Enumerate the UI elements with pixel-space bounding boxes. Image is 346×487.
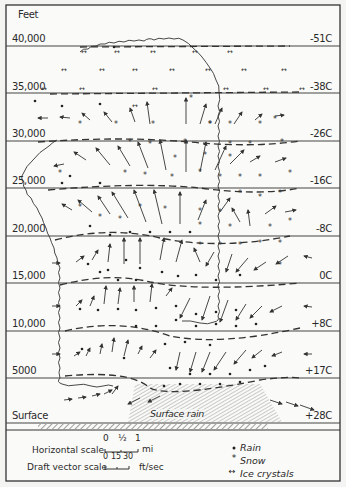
altitude-label-15000: 15,000 <box>12 271 45 281</box>
svg-text:↔: ↔ <box>79 85 85 93</box>
svg-text:↔: ↔ <box>132 66 138 74</box>
temperature-label: -26C <box>310 129 332 139</box>
svg-text:↔: ↔ <box>152 85 158 93</box>
svg-text:↔: ↔ <box>241 66 247 74</box>
temperature-label: -16C <box>310 176 332 186</box>
svg-text:*: * <box>198 207 202 216</box>
altitude-label-40000: 40,000 <box>12 34 45 44</box>
svg-text:↔: ↔ <box>281 66 287 74</box>
svg-text:*: * <box>258 173 262 182</box>
temperature-label: +28C <box>305 411 332 421</box>
svg-text:*: * <box>218 208 222 217</box>
horizontal-scale-tick: 1 <box>135 433 141 443</box>
svg-text:*: * <box>288 217 292 226</box>
svg-text:*: * <box>280 138 284 147</box>
svg-text:*: * <box>228 153 232 162</box>
svg-text:*: * <box>208 120 212 129</box>
altitude-label-35000: 35,000 <box>12 82 45 92</box>
altitude-label-30000: 30,000 <box>12 129 45 139</box>
svg-text:↔: ↔ <box>150 48 156 56</box>
temperature-label: -38C <box>310 82 332 92</box>
svg-text:↔: ↔ <box>114 48 120 56</box>
svg-text:*: * <box>273 115 277 124</box>
svg-text:*: * <box>198 241 202 250</box>
svg-text:*: * <box>198 168 202 177</box>
svg-text:↔: ↔ <box>61 66 67 74</box>
temperature-label: -51C <box>310 34 332 44</box>
altitude-label-25000: 25,000 <box>12 176 45 186</box>
rain-symbol <box>233 447 236 450</box>
svg-text:*: * <box>278 189 282 198</box>
svg-text:*: * <box>228 223 232 232</box>
thunderstorm-cross-section-diagram: *** *** *** *** *** *** *** *** *** *** … <box>0 0 346 487</box>
svg-text:↔: ↔ <box>81 48 87 56</box>
draft-scale-tick: 15 <box>111 452 121 461</box>
ice-crystal-symbol: ↔ <box>229 467 236 476</box>
altitude-label-20000: 20,000 <box>12 224 45 234</box>
svg-text:↔: ↔ <box>132 102 138 110</box>
altitude-label-10000: 10,000 <box>12 319 45 329</box>
svg-text:*: * <box>114 120 118 129</box>
svg-text:*: * <box>218 173 222 182</box>
svg-text:*: * <box>78 203 82 212</box>
svg-text:*: * <box>123 169 127 178</box>
snow-symbol: * <box>232 453 237 463</box>
svg-text:*: * <box>170 173 174 182</box>
draft-scale-tick: 0 <box>103 452 108 461</box>
svg-text:*: * <box>278 261 282 270</box>
svg-text:*: * <box>173 154 177 163</box>
svg-text:↔: ↔ <box>192 48 198 56</box>
temperature-label: 0C <box>319 271 332 281</box>
svg-text:*: * <box>228 140 232 149</box>
svg-text:↔: ↔ <box>263 85 269 93</box>
legend-snow: Snow <box>240 455 266 466</box>
svg-text:↔: ↔ <box>299 85 305 93</box>
temperature-label: +8C <box>311 319 332 329</box>
svg-text:*: * <box>268 223 272 232</box>
draft-vector-scale-unit: ft/sec <box>139 462 164 472</box>
svg-text:*: * <box>203 151 207 160</box>
svg-text:*: * <box>288 169 292 178</box>
svg-text:*: * <box>278 239 282 248</box>
horizontal-scale-unit: mi <box>142 444 153 454</box>
svg-text:*: * <box>258 120 262 129</box>
temperature-label: +17C <box>305 366 332 376</box>
svg-text:↔: ↔ <box>223 85 229 93</box>
horizontal-scale-tick: 0 <box>103 433 109 443</box>
draft-scale-tick: 30 <box>123 452 133 461</box>
svg-text:↔: ↔ <box>169 66 175 74</box>
svg-text:*: * <box>143 171 147 180</box>
temperature-label: -8C <box>316 224 332 234</box>
svg-text:*: * <box>218 241 222 250</box>
svg-text:*: * <box>148 140 152 149</box>
altitude-label-5000: 5000 <box>12 366 36 376</box>
svg-text:*: * <box>98 213 102 222</box>
svg-text:*: * <box>248 140 252 149</box>
svg-text:*: * <box>189 94 193 103</box>
svg-text:↔: ↔ <box>227 48 233 56</box>
horizontal-scale-label: Horizontal scale <box>32 445 104 455</box>
horizontal-scale-tick: ½ <box>118 433 127 443</box>
svg-text:*: * <box>138 203 142 212</box>
surface-rain-label: Surface rain <box>150 409 204 419</box>
svg-text:*: * <box>258 193 262 202</box>
draft-vector-scale-label: Draft vector scale <box>27 462 107 472</box>
legend-rain: Rain <box>240 442 261 453</box>
svg-text:*: * <box>238 241 242 250</box>
svg-text:*: * <box>58 169 62 178</box>
svg-text:*: * <box>163 205 167 214</box>
legend-ice-crystals: Ice crystals <box>240 468 294 479</box>
altitude-label-surface: Surface <box>12 411 48 421</box>
svg-text:*: * <box>238 189 242 198</box>
svg-text:*: * <box>198 221 202 230</box>
svg-text:*: * <box>128 138 132 147</box>
svg-text:*: * <box>151 120 155 129</box>
y-unit-label: Feet <box>18 10 38 20</box>
ground-hatch <box>38 424 138 429</box>
svg-text:*: * <box>258 239 262 248</box>
svg-text:↔: ↔ <box>99 66 105 74</box>
svg-text:*: * <box>183 138 187 147</box>
svg-text:*: * <box>228 120 232 129</box>
svg-text:*: * <box>78 120 82 129</box>
svg-text:*: * <box>238 173 242 182</box>
